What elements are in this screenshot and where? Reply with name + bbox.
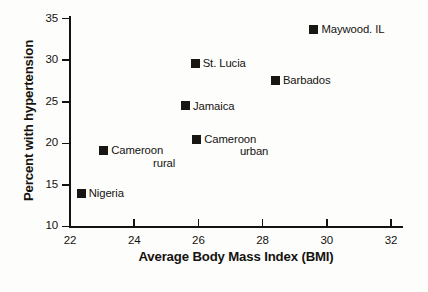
data-point-label-line2: urban	[204, 145, 268, 157]
y-tick-mark	[62, 59, 70, 61]
chart-screenshot: 101520253035 222426283032 NigeriaCameroo…	[0, 0, 428, 292]
y-tick-mark	[62, 101, 70, 103]
data-point-marker[interactable]	[309, 25, 318, 34]
x-axis-line	[69, 226, 403, 228]
x-tick-mark	[69, 219, 71, 227]
data-point-marker[interactable]	[181, 101, 190, 110]
data-point-label: Cameroonrural	[111, 144, 175, 168]
x-tick-mark	[390, 219, 392, 227]
x-tick-mark	[133, 219, 135, 227]
data-point-label-line1: Cameroon	[204, 133, 268, 145]
y-tick-mark	[62, 184, 70, 186]
x-tick-label-wrap: 22	[50, 230, 90, 248]
data-point-marker[interactable]	[191, 59, 200, 68]
x-axis-title: Average Body Mass Index (BMI)	[69, 249, 403, 264]
data-point-marker[interactable]	[99, 146, 108, 155]
x-tick-label-wrap: 24	[114, 230, 154, 248]
data-point-marker[interactable]	[192, 135, 201, 144]
x-tick-label: 24	[128, 234, 141, 246]
data-point-label: St. Lucia	[203, 57, 246, 69]
x-tick-mark	[326, 219, 328, 227]
x-tick-label: 28	[256, 234, 269, 246]
x-tick-label-wrap: 28	[243, 230, 283, 248]
scatter-plot: 101520253035 222426283032 NigeriaCameroo…	[0, 0, 428, 292]
data-point-label-line2: rural	[111, 157, 175, 169]
data-point-label: Jamaica	[193, 100, 234, 112]
y-axis-title: Percent with hypertension	[21, 11, 36, 231]
x-tick-mark	[262, 219, 264, 227]
x-tick-label: 32	[385, 234, 398, 246]
data-point-label: Maywood. IL	[321, 23, 384, 35]
y-tick-mark	[62, 18, 70, 20]
y-axis-line	[69, 16, 71, 228]
data-point-label: Nigeria	[89, 187, 124, 199]
x-tick-label-wrap: 30	[307, 230, 347, 248]
data-point-label-line1: Cameroon	[111, 144, 175, 156]
x-tick-label: 22	[64, 234, 77, 246]
x-tick-label: 26	[192, 234, 205, 246]
x-tick-mark	[198, 219, 200, 227]
data-point-label: Barbados	[283, 74, 331, 86]
data-point-label: Cameroonurban	[204, 133, 268, 157]
data-point-marker[interactable]	[77, 189, 86, 198]
data-point-marker[interactable]	[271, 76, 280, 85]
x-tick-label: 30	[321, 234, 334, 246]
x-tick-label-wrap: 32	[371, 230, 411, 248]
y-tick-mark	[62, 143, 70, 145]
x-tick-label-wrap: 26	[178, 230, 218, 248]
